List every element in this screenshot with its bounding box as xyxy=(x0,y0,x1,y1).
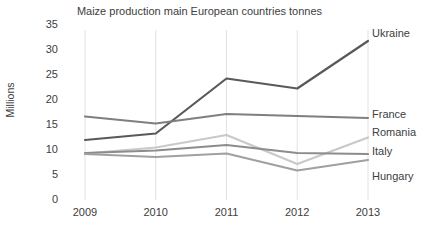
x-tick-label: 2012 xyxy=(267,206,327,218)
x-tick-label: 2013 xyxy=(338,206,398,218)
plot-area xyxy=(0,0,427,236)
x-tick-label: 2009 xyxy=(55,206,115,218)
series-label-ukraine: Ukraine xyxy=(372,27,410,39)
x-tick-label: 2011 xyxy=(197,206,257,218)
series-label-hungary: Hungary xyxy=(372,170,414,182)
series-label-france: France xyxy=(372,108,406,120)
series-label-romania: Romania xyxy=(372,126,416,138)
line-chart: Maize production main European countries… xyxy=(0,0,427,236)
x-tick-label: 2010 xyxy=(126,206,186,218)
series-label-italy: Italy xyxy=(372,145,392,157)
